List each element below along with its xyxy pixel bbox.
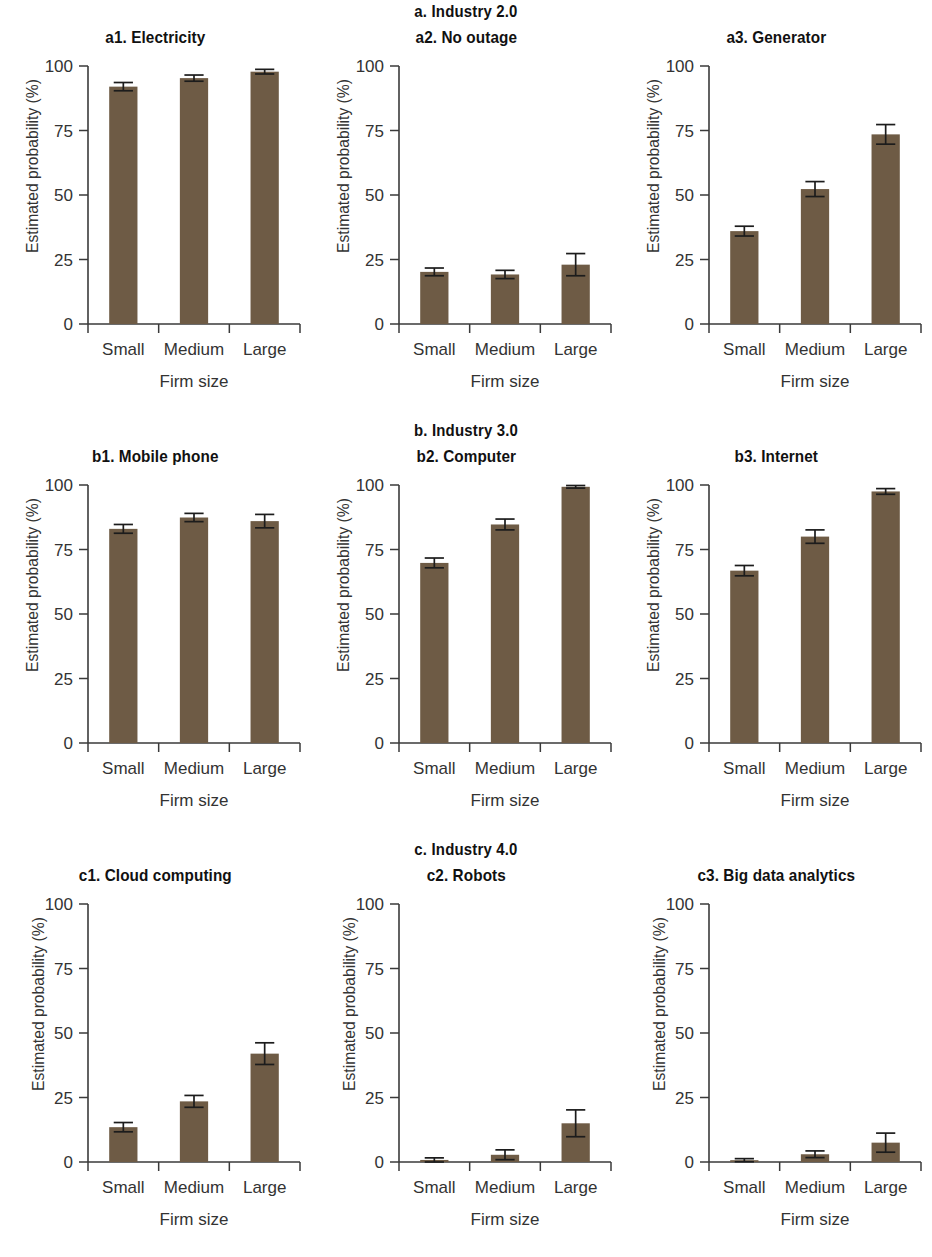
panel-b3: b3. Internet Estimated probability (%) 0… bbox=[621, 443, 932, 821]
y-tick-label: 0 bbox=[685, 315, 694, 334]
x-category-label: Small bbox=[102, 340, 145, 359]
y-tick-label: 75 bbox=[675, 960, 694, 979]
y-tick-label: 0 bbox=[64, 734, 73, 753]
panel-title-b2: b2. Computer bbox=[326, 443, 606, 471]
y-tick-label: 25 bbox=[54, 670, 73, 689]
y-tick-label: 50 bbox=[675, 1024, 694, 1043]
x-category-label: Large bbox=[243, 1178, 286, 1197]
y-tick-label: 50 bbox=[675, 605, 694, 624]
x-axis-label: Firm size bbox=[781, 372, 850, 391]
bar bbox=[420, 272, 448, 324]
x-category-label: Large bbox=[554, 340, 597, 359]
panel-title-b1: b1. Mobile phone bbox=[16, 443, 296, 471]
bar bbox=[490, 274, 518, 324]
x-category-label: Small bbox=[723, 340, 766, 359]
y-tick-label: 75 bbox=[365, 960, 384, 979]
panel-title-c3: c3. Big data analytics bbox=[637, 862, 917, 890]
y-tick-label: 50 bbox=[365, 186, 384, 205]
plot-a3: Estimated probability (%) 0255075100Smal… bbox=[621, 52, 932, 402]
panel-c2: c2. Robots Estimated probability (%) 025… bbox=[311, 862, 622, 1240]
y-tick-label: 50 bbox=[365, 605, 384, 624]
y-tick-label: 25 bbox=[54, 251, 73, 270]
x-category-label: Medium bbox=[785, 1178, 845, 1197]
chart-svg-b1: 0255075100SmallMediumLargeFirm size bbox=[0, 471, 311, 821]
x-axis-label: Firm size bbox=[470, 791, 539, 810]
bar bbox=[801, 537, 829, 743]
chart-svg-b3: 0255075100SmallMediumLargeFirm size bbox=[621, 471, 932, 821]
panel-title-a1: a1. Electricity bbox=[16, 24, 296, 52]
bar bbox=[251, 521, 279, 743]
x-category-label: Large bbox=[243, 340, 286, 359]
x-axis-label: Firm size bbox=[470, 1210, 539, 1229]
chart-svg-c2: 0255075100SmallMediumLargeFirm size bbox=[311, 890, 622, 1240]
x-axis-label: Firm size bbox=[160, 791, 229, 810]
bar bbox=[490, 524, 518, 743]
panel-c1: c1. Cloud computing Estimated probabilit… bbox=[0, 862, 311, 1240]
x-category-label: Small bbox=[413, 1178, 456, 1197]
y-tick-label: 25 bbox=[365, 670, 384, 689]
x-category-label: Small bbox=[102, 1178, 145, 1197]
group-title-a: a. Industry 2.0 bbox=[56, 0, 876, 24]
panel-title-b3: b3. Internet bbox=[637, 443, 917, 471]
bar bbox=[561, 487, 589, 743]
x-category-label: Medium bbox=[474, 340, 534, 359]
y-tick-label: 100 bbox=[45, 476, 73, 495]
bar bbox=[109, 529, 137, 743]
x-category-label: Medium bbox=[785, 340, 845, 359]
group-a-panels: a1. Electricity Estimated probability (%… bbox=[0, 24, 932, 402]
bar bbox=[730, 571, 758, 743]
y-tick-label: 0 bbox=[374, 315, 383, 334]
y-tick-label: 75 bbox=[365, 541, 384, 560]
figure-root: a. Industry 2.0 a1. Electricity Estimate… bbox=[0, 0, 932, 1257]
y-tick-label: 75 bbox=[54, 122, 73, 141]
y-tick-label: 0 bbox=[374, 1153, 383, 1172]
group-a: a. Industry 2.0 a1. Electricity Estimate… bbox=[0, 0, 932, 419]
bar bbox=[180, 518, 208, 743]
y-tick-label: 100 bbox=[355, 895, 383, 914]
x-category-label: Medium bbox=[785, 759, 845, 778]
bar bbox=[872, 134, 900, 324]
plot-a2: Estimated probability (%) 0255075100Smal… bbox=[311, 52, 622, 402]
panel-title-c2: c2. Robots bbox=[326, 862, 606, 890]
y-tick-label: 100 bbox=[666, 57, 694, 76]
bar bbox=[180, 1101, 208, 1162]
panel-title-c1: c1. Cloud computing bbox=[16, 862, 296, 890]
x-axis-label: Firm size bbox=[781, 1210, 850, 1229]
panel-title-a3: a3. Generator bbox=[637, 24, 917, 52]
group-title-b: b. Industry 3.0 bbox=[56, 419, 876, 443]
y-tick-label: 25 bbox=[365, 251, 384, 270]
x-category-label: Large bbox=[864, 340, 907, 359]
y-tick-label: 100 bbox=[45, 895, 73, 914]
x-category-label: Large bbox=[864, 759, 907, 778]
panel-a2: a2. No outage Estimated probability (%) … bbox=[311, 24, 622, 402]
x-category-label: Medium bbox=[474, 1178, 534, 1197]
panel-c3: c3. Big data analytics Estimated probabi… bbox=[621, 862, 932, 1240]
y-tick-label: 75 bbox=[675, 122, 694, 141]
y-tick-label: 25 bbox=[675, 670, 694, 689]
group-title-c: c. Industry 4.0 bbox=[56, 838, 876, 862]
x-category-label: Medium bbox=[164, 1178, 224, 1197]
bar bbox=[420, 563, 448, 743]
x-axis-label: Firm size bbox=[781, 791, 850, 810]
y-tick-label: 0 bbox=[685, 1153, 694, 1172]
y-tick-label: 50 bbox=[365, 1024, 384, 1043]
panel-a1: a1. Electricity Estimated probability (%… bbox=[0, 24, 311, 402]
y-tick-label: 100 bbox=[355, 57, 383, 76]
chart-svg-b2: 0255075100SmallMediumLargeFirm size bbox=[311, 471, 622, 821]
y-tick-label: 100 bbox=[666, 476, 694, 495]
chart-svg-c3: 0255075100SmallMediumLargeFirm size bbox=[621, 890, 932, 1240]
bar bbox=[251, 72, 279, 324]
group-c-panels: c1. Cloud computing Estimated probabilit… bbox=[0, 862, 932, 1240]
y-tick-label: 100 bbox=[355, 476, 383, 495]
plot-c3: Estimated probability (%) 0255075100Smal… bbox=[621, 890, 932, 1240]
chart-svg-a1: 0255075100SmallMediumLargeFirm size bbox=[0, 52, 311, 402]
x-category-label: Large bbox=[554, 1178, 597, 1197]
chart-svg-a2: 0255075100SmallMediumLargeFirm size bbox=[311, 52, 622, 402]
chart-svg-a3: 0255075100SmallMediumLargeFirm size bbox=[621, 52, 932, 402]
group-b: b. Industry 3.0 b1. Mobile phone Estimat… bbox=[0, 419, 932, 838]
bar bbox=[872, 491, 900, 743]
y-tick-label: 25 bbox=[54, 1089, 73, 1108]
y-tick-label: 0 bbox=[64, 315, 73, 334]
panel-title-a2: a2. No outage bbox=[326, 24, 606, 52]
x-axis-label: Firm size bbox=[470, 372, 539, 391]
